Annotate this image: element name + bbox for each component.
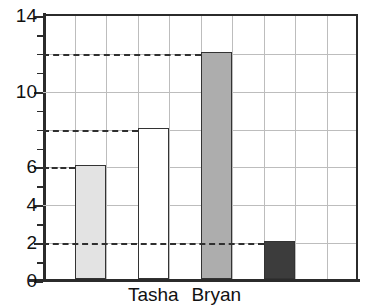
y-axis-tick-label: 10 bbox=[16, 81, 37, 103]
bar bbox=[264, 241, 296, 279]
y-axis-minor-tick bbox=[37, 35, 43, 37]
x-axis-tick-label: Tasha bbox=[128, 284, 179, 306]
gridline-vertical bbox=[232, 16, 233, 279]
y-axis-minor-tick bbox=[37, 149, 43, 151]
y-axis-tick-label: 14 bbox=[16, 5, 37, 27]
gridline-vertical bbox=[327, 16, 328, 279]
value-leader-line bbox=[43, 243, 264, 245]
value-leader-line bbox=[43, 54, 201, 56]
x-axis-tick-label: Bryan bbox=[191, 284, 241, 306]
y-axis-tick-label: 2 bbox=[26, 232, 37, 254]
y-axis-tick-label: 4 bbox=[26, 194, 37, 216]
y-axis-tick-label: 6 bbox=[26, 156, 37, 178]
y-axis-minor-tick bbox=[37, 262, 43, 264]
y-axis-minor-tick bbox=[37, 73, 43, 75]
y-axis-tick-label: 0 bbox=[26, 270, 37, 292]
gridline-horizontal bbox=[43, 92, 356, 93]
bar bbox=[138, 128, 170, 279]
y-axis-minor-tick bbox=[37, 224, 43, 226]
gridline-vertical bbox=[264, 16, 265, 279]
plot-area: 02461014 bbox=[43, 14, 358, 279]
value-leader-line bbox=[43, 130, 138, 132]
y-axis-minor-tick bbox=[37, 186, 43, 188]
x-axis-line bbox=[29, 279, 360, 282]
gridline-vertical bbox=[295, 16, 296, 279]
y-axis-minor-tick bbox=[37, 111, 43, 113]
bar bbox=[75, 165, 107, 279]
value-leader-line bbox=[43, 167, 75, 169]
